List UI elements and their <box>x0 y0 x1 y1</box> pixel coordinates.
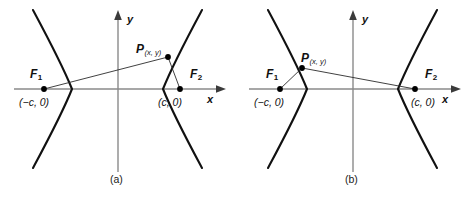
focus-f1-dot <box>277 86 283 92</box>
segment-f1-p <box>280 68 302 89</box>
x-axis-label: x <box>207 94 213 105</box>
panel-b-caption: (b) <box>345 174 358 185</box>
point-p-label: P(x, y) <box>301 52 326 66</box>
focus-f2-subscript: 2 <box>197 73 202 82</box>
focus-f1-subscript: 1 <box>37 73 42 82</box>
focus-f1-coordinate: (−c, 0) <box>254 97 284 108</box>
hyperbola-figure: y x F1 (−c, 0) F2 (c, 0) P(x, y) (a) <box>0 0 471 198</box>
y-axis-arrowhead <box>349 10 357 20</box>
x-axis-arrowhead <box>451 85 461 93</box>
focus-f1-label: F1 <box>30 68 42 82</box>
focus-f2-dot <box>412 86 418 92</box>
y-axis-label: y <box>127 14 133 25</box>
x-axis-label: x <box>442 94 448 105</box>
point-p-letter: P <box>301 51 309 65</box>
focus-f1-label: F1 <box>266 68 278 82</box>
x-axis-arrowhead <box>216 85 226 93</box>
focus-f1-subscript: 1 <box>273 73 278 82</box>
y-axis-label: y <box>362 14 368 25</box>
panel-a-caption: (a) <box>110 174 123 185</box>
segment-f2-p <box>302 68 415 89</box>
point-p-subscript: (x, y) <box>144 48 161 57</box>
focus-f2-coordinate: (c, 0) <box>158 97 182 108</box>
focus-f2-coordinate: (c, 0) <box>411 97 435 108</box>
point-p-letter: P <box>136 42 144 56</box>
focus-f1-coordinate: (−c, 0) <box>19 97 49 108</box>
y-axis-arrowhead <box>114 10 122 20</box>
point-p-subscript: (x, y) <box>309 57 326 66</box>
focus-f2-label: F2 <box>190 68 202 82</box>
focus-f2-label: F2 <box>425 68 437 82</box>
focus-f1-dot <box>41 86 47 92</box>
point-p-dot <box>299 65 305 71</box>
segment-f1-p <box>44 57 168 89</box>
panel-b: y x F1 (−c, 0) F2 (c, 0) P(x, y) (b) <box>235 0 471 198</box>
focus-f2-dot <box>177 86 183 92</box>
panel-a: y x F1 (−c, 0) F2 (c, 0) P(x, y) (a) <box>0 0 236 198</box>
point-p-label: P(x, y) <box>136 43 161 57</box>
focus-f2-subscript: 2 <box>432 73 437 82</box>
point-p-dot <box>165 54 171 60</box>
